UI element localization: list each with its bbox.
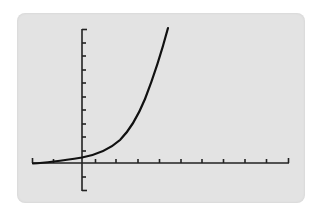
function-graph [0,0,313,209]
function-curve [33,28,168,164]
y-axis [82,29,87,191]
